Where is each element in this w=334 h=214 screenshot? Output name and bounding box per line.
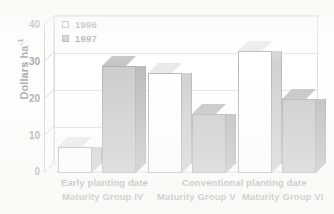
y-tick-label-0: 0 — [18, 166, 40, 177]
gridline-40 — [55, 16, 319, 17]
x-group-header-conventional-planting: Conventional planting date — [182, 177, 307, 188]
bar-1996-maturity-group-vi[interactable] — [238, 51, 272, 173]
bar-front-face — [58, 147, 92, 173]
bar-side-face — [316, 99, 326, 173]
x-group-header-early-planting: Early planting date — [61, 177, 148, 188]
y-axis-title-exponent: -1 — [16, 38, 25, 45]
bar-top-face — [238, 41, 272, 51]
bar-top-face — [148, 63, 182, 73]
legend-swatch-open-icon — [62, 21, 69, 28]
bar-front-face — [102, 66, 136, 173]
y-axis-title: Dollars ha-1 — [16, 14, 30, 124]
chart-screenshot: Dollars ha-1 40 30 20 10 0 — [0, 0, 334, 214]
legend-label-1997: 1997 — [75, 33, 97, 44]
bar-side-face — [136, 66, 146, 173]
legend: 1996 1997 — [62, 18, 97, 46]
bar-front-face — [238, 51, 272, 173]
bars-layer — [44, 25, 318, 173]
bar-side-face — [272, 51, 282, 173]
bar-top-face — [192, 104, 226, 114]
bar-1997-maturity-group-v[interactable] — [192, 114, 226, 173]
bar-1997-maturity-group-vi[interactable] — [282, 99, 316, 173]
bar-front-face — [192, 114, 226, 173]
bar-front-face — [148, 73, 182, 173]
bar-1997-maturity-group-iv[interactable] — [102, 66, 136, 173]
bar-top-face — [282, 89, 316, 99]
bar-side-face — [92, 147, 102, 173]
bar-front-face — [282, 99, 316, 173]
legend-label-1996: 1996 — [75, 19, 97, 30]
legend-item-1996[interactable]: 1996 — [62, 18, 97, 30]
bar-side-face — [182, 73, 192, 173]
y-tick-label-10: 10 — [18, 130, 40, 141]
x-label-maturity-group-vi: Maturity Group VI — [242, 191, 323, 202]
y-tick-label-30: 30 — [18, 56, 40, 67]
legend-item-1997[interactable]: 1997 — [62, 32, 97, 44]
bar-top-face — [102, 56, 136, 66]
bar-1996-maturity-group-iv[interactable] — [58, 147, 92, 173]
bar-top-face — [58, 137, 92, 147]
bar-1996-maturity-group-v[interactable] — [148, 73, 182, 173]
legend-swatch-filled-icon — [62, 35, 69, 42]
bar-side-face — [226, 114, 236, 173]
y-axis-title-text: Dollars ha — [18, 45, 30, 99]
x-axis-labels: Early planting date Conventional plantin… — [0, 177, 334, 214]
y-tick-label-40: 40 — [18, 19, 40, 30]
y-tick-label-20: 20 — [18, 93, 40, 104]
x-label-maturity-group-iv: Maturity Group IV — [62, 191, 143, 202]
x-label-maturity-group-v: Maturity Group V — [157, 191, 236, 202]
